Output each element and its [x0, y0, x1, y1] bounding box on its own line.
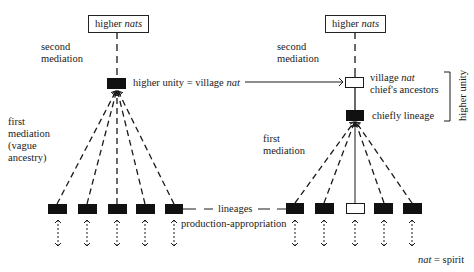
lineages-label: lineages	[218, 203, 252, 215]
right-higher-nats-box: higher nats	[325, 15, 386, 33]
legend-nat-spirit: nat = spirit	[418, 254, 464, 266]
left-first-mediation: first mediation (vague ancestry)	[8, 116, 50, 164]
higher-unity-bracket-label: higher unity	[457, 66, 468, 126]
left-higher-nats-box: higher nats	[88, 15, 149, 33]
right-second-mediation: second mediation	[277, 41, 319, 65]
right-village-label: village nat chief's ancestors	[370, 72, 439, 96]
left-higher-nats-prefix: higher	[95, 18, 124, 30]
chiefly-lineage-label: chiefly lineage	[372, 110, 434, 122]
production-appropriation-label: production-appropriation	[181, 218, 287, 230]
right-first-mediation: first mediation	[263, 133, 305, 157]
left-higher-nats-italic: nats	[124, 18, 142, 30]
left-second-mediation: second mediation	[41, 41, 83, 65]
left-unity-label: higher unity = village nat	[133, 77, 240, 89]
